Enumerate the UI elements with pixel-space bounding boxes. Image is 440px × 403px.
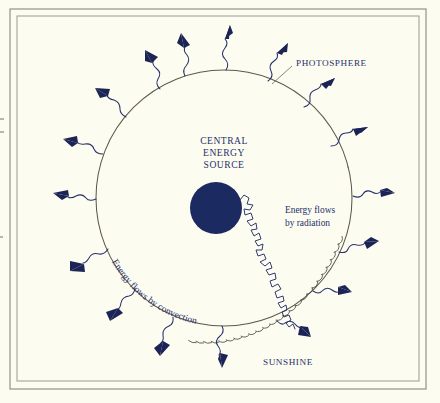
figure-canvas: PHOTOSPHERE CENTRAL ENERGY SOURCE Energy…: [0, 0, 440, 403]
label-radiation-line2: by radiation: [285, 218, 330, 228]
label-central-line2: ENERGY: [203, 147, 245, 158]
sun-energy-diagram: PHOTOSPHERE CENTRAL ENERGY SOURCE Energy…: [0, 0, 440, 403]
label-radiation-line1: Energy flows: [285, 205, 335, 215]
central-energy-source-disc: [190, 182, 242, 234]
label-sunshine: SUNSHINE: [263, 357, 313, 367]
label-photosphere: PHOTOSPHERE: [296, 58, 367, 68]
label-central-line1: CENTRAL: [200, 135, 248, 146]
label-central-line3: SOURCE: [204, 159, 245, 170]
